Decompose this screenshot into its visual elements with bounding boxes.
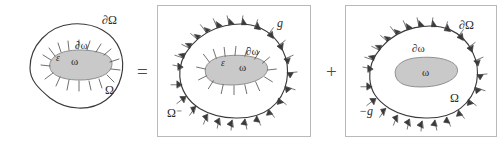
panel-original-problem: ∂Ω Ω ∂ω ω ε: [14, 6, 136, 128]
label-exterior-domain: Ω⁻: [167, 107, 182, 119]
panel-interior-flux-problem: g Ω⁻ ∂ω ω ε: [157, 5, 311, 137]
label-inner-boundary: ∂ω: [246, 46, 259, 57]
label-inner-domain: ω: [239, 62, 246, 73]
label-outer-flux-g: g: [277, 17, 283, 29]
label-outer-boundary: ∂Ω: [459, 19, 474, 31]
label-inner-boundary: ∂ω: [75, 40, 88, 51]
operator-plus: +: [326, 62, 337, 81]
label-inner-boundary: ∂ω: [412, 43, 425, 54]
label-outer-boundary: ∂Ω: [102, 14, 117, 26]
label-outer-flux-negative: −g: [359, 105, 373, 117]
label-epsilon-source: ε: [56, 54, 60, 64]
label-outer-domain: Ω: [450, 92, 459, 104]
label-inner-domain: ω: [71, 56, 78, 67]
panel-negative-flux-problem: ∂Ω Ω −g ∂ω ω: [345, 5, 497, 137]
label-outer-domain: Ω: [105, 84, 114, 96]
inclusion-path: [205, 55, 267, 85]
label-inner-domain: ω: [422, 67, 429, 78]
operator-equals: =: [137, 62, 148, 81]
label-epsilon-source: ε: [221, 59, 225, 69]
panel-left-graphics: [14, 6, 136, 128]
figure-domain-decomposition: ∂Ω Ω ∂ω ω ε =: [0, 0, 504, 142]
